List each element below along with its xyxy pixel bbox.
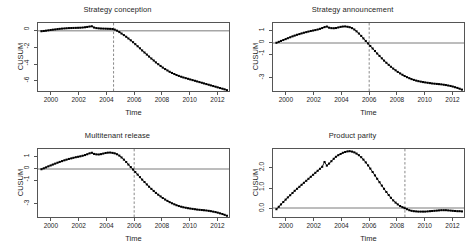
x-tick-mark — [341, 92, 342, 95]
x-tick-mark — [217, 218, 218, 221]
x-tick-label: 2000 — [272, 222, 300, 229]
x-tick-mark — [161, 92, 162, 95]
x-tick-label: 2008 — [148, 222, 176, 229]
x-tick-label: 2004 — [92, 96, 120, 103]
x-tick-label: 2004 — [327, 222, 355, 229]
x-tick-mark — [396, 218, 397, 221]
x-tick-mark — [50, 92, 51, 95]
x-tick-mark — [313, 218, 314, 221]
x-tick-mark — [369, 92, 370, 95]
x-axis-label: Time — [37, 108, 230, 117]
cusum-panel: Strategy conception200020022004200620082… — [0, 0, 235, 126]
series-plot — [273, 149, 464, 217]
x-tick-mark — [189, 92, 190, 95]
x-tick-mark — [285, 92, 286, 95]
x-tick-mark — [134, 92, 135, 95]
x-tick-label: 2006 — [355, 222, 383, 229]
y-tick-mark — [34, 30, 37, 31]
y-tick-mark — [269, 77, 272, 78]
y-tick-mark — [269, 42, 272, 43]
x-tick-label: 2008 — [383, 96, 411, 103]
x-tick-label: 2008 — [148, 96, 176, 103]
panel-title: Product parity — [235, 131, 470, 140]
x-tick-label: 2002 — [65, 96, 93, 103]
y-tick-mark — [34, 203, 37, 204]
x-tick-label: 2002 — [65, 222, 93, 229]
x-tick-label: 2012 — [439, 222, 467, 229]
x-tick-label: 2012 — [204, 96, 232, 103]
x-tick-label: 2006 — [120, 96, 148, 103]
series-markers — [40, 25, 228, 91]
x-axis-label: Time — [272, 234, 465, 243]
y-tick-mark — [269, 54, 272, 55]
plot-area — [272, 22, 465, 92]
x-tick-label: 2012 — [204, 222, 232, 229]
cusum-panel: Product parity20002002200420062008201020… — [235, 126, 470, 252]
y-tick-mark — [269, 208, 272, 209]
panel-title: Multitenant release — [0, 131, 235, 140]
y-tick-mark — [34, 64, 37, 65]
x-tick-mark — [134, 218, 135, 221]
x-tick-label: 2012 — [439, 96, 467, 103]
y-tick-mark — [34, 168, 37, 169]
x-tick-mark — [424, 92, 425, 95]
x-tick-mark — [50, 218, 51, 221]
series-plot — [38, 149, 229, 217]
x-tick-mark — [161, 218, 162, 221]
y-tick-mark — [34, 156, 37, 157]
y-tick-mark — [269, 30, 272, 31]
x-tick-mark — [396, 92, 397, 95]
y-tick-mark — [269, 188, 272, 189]
y-axis-label: CUSUM — [16, 153, 25, 213]
x-axis-label: Time — [272, 108, 465, 117]
x-tick-label: 2002 — [300, 96, 328, 103]
plot-area — [272, 148, 465, 218]
x-tick-mark — [78, 92, 79, 95]
plot-area — [37, 22, 230, 92]
x-tick-mark — [78, 218, 79, 221]
y-tick-mark — [34, 180, 37, 181]
plot-area — [37, 148, 230, 218]
x-tick-label: 2010 — [176, 96, 204, 103]
series-plot — [38, 23, 229, 91]
y-tick-mark — [269, 167, 272, 168]
series-plot — [273, 23, 464, 91]
x-tick-label: 2002 — [300, 222, 328, 229]
x-tick-label: 2010 — [411, 222, 439, 229]
x-tick-mark — [452, 218, 453, 221]
x-tick-mark — [106, 92, 107, 95]
series-line — [276, 151, 462, 211]
panel-title: Strategy conception — [0, 5, 235, 14]
x-tick-mark — [285, 218, 286, 221]
x-tick-label: 2004 — [92, 222, 120, 229]
y-tick-mark — [34, 47, 37, 48]
x-tick-label: 2004 — [327, 96, 355, 103]
series-line — [41, 26, 227, 90]
x-tick-label: 2000 — [37, 222, 65, 229]
x-tick-label: 2008 — [383, 222, 411, 229]
x-tick-mark — [313, 92, 314, 95]
x-tick-label: 2000 — [37, 96, 65, 103]
series-markers — [275, 150, 463, 212]
x-tick-mark — [106, 218, 107, 221]
cusum-panel: Multitenant release200020022004200620082… — [0, 126, 235, 252]
x-tick-mark — [369, 218, 370, 221]
x-tick-label: 2010 — [176, 222, 204, 229]
x-tick-mark — [217, 92, 218, 95]
x-tick-label: 2000 — [272, 96, 300, 103]
y-axis-label: CUSUM — [251, 153, 260, 213]
x-tick-mark — [452, 92, 453, 95]
x-axis-label: Time — [37, 234, 230, 243]
y-axis-label: CUSUM — [251, 27, 260, 87]
cusum-panel: Strategy announcement2000200220042006200… — [235, 0, 470, 126]
x-tick-mark — [341, 218, 342, 221]
panel-title: Strategy announcement — [235, 5, 470, 14]
x-tick-mark — [424, 218, 425, 221]
x-tick-mark — [189, 218, 190, 221]
x-tick-label: 2006 — [355, 96, 383, 103]
x-tick-label: 2010 — [411, 96, 439, 103]
cusum-figure: Strategy conception200020022004200620082… — [0, 0, 470, 252]
x-tick-label: 2006 — [120, 222, 148, 229]
y-axis-label: CUSUM — [16, 27, 25, 87]
y-tick-mark — [34, 80, 37, 81]
